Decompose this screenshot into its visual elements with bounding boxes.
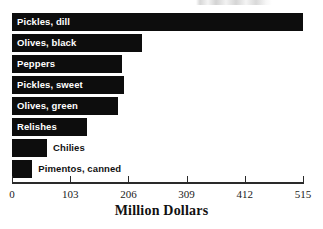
bar-row: Olives, black <box>12 34 142 52</box>
x-tick-mark <box>12 176 13 183</box>
bar-row: Relishes <box>12 118 87 136</box>
bar-chart: Pickles, dillOlives, blackPeppersPickles… <box>0 0 323 229</box>
x-tick-label: 103 <box>50 188 90 200</box>
x-tick-label: 0 <box>0 188 32 200</box>
x-tick-label: 309 <box>167 188 207 200</box>
bar-label: Peppers <box>17 55 55 73</box>
bar-row: Pimentos, canned <box>12 160 32 178</box>
bar-label: Relishes <box>17 118 57 136</box>
x-tick-label: 206 <box>108 188 148 200</box>
x-tick-label: 412 <box>225 188 265 200</box>
bar-label: Pickles, dill <box>17 13 70 31</box>
plot-area: Pickles, dillOlives, blackPeppersPickles… <box>0 0 323 183</box>
bar <box>12 160 32 178</box>
bar-label: Pimentos, canned <box>38 160 121 178</box>
bar-label: Olives, black <box>17 34 76 52</box>
x-tick-mark <box>245 176 246 183</box>
bar-row: Peppers <box>12 55 122 73</box>
bar-row: Chilies <box>12 139 47 157</box>
bar-label: Chilies <box>53 139 85 157</box>
x-tick-mark <box>187 176 188 183</box>
x-tick-mark <box>303 176 304 183</box>
bar-row: Olives, green <box>12 97 118 115</box>
x-axis-label: Million Dollars <box>0 203 323 219</box>
bar <box>12 139 47 157</box>
x-tick-mark <box>70 176 71 183</box>
x-tick-label: 515 <box>283 188 323 200</box>
bar-row: Pickles, sweet <box>12 76 124 94</box>
bar-label: Pickles, sweet <box>17 76 83 94</box>
x-axis-line <box>12 182 304 184</box>
x-tick-mark <box>128 176 129 183</box>
bar-label: Olives, green <box>17 97 78 115</box>
bar-row: Pickles, dill <box>12 13 303 31</box>
